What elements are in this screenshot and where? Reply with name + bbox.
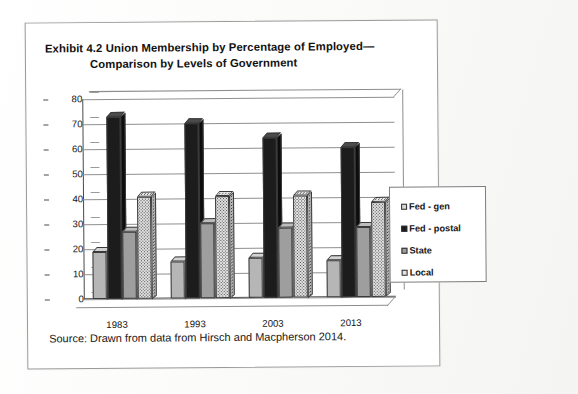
bar-front bbox=[171, 261, 185, 299]
bar-front bbox=[371, 202, 386, 297]
exhibit-title-line-1: Exhibit 4.2 Union Membership by Percenta… bbox=[45, 40, 375, 55]
y-tick-label: 20 bbox=[49, 243, 83, 254]
legend-item-local: Local bbox=[402, 267, 434, 277]
bar-front bbox=[341, 147, 356, 297]
x-tick-label-2003: 2003 bbox=[243, 317, 303, 328]
bar-chart: 01020304050607080 1983199320032013 Fed -… bbox=[36, 82, 434, 335]
bar-side bbox=[229, 191, 235, 298]
bar-state-1993 bbox=[200, 223, 215, 298]
bar-front bbox=[278, 228, 293, 298]
bar-state-1983 bbox=[122, 231, 137, 299]
y-tick-label: 60 bbox=[49, 143, 83, 154]
exhibit-title: Exhibit 4.2 Union Membership by Percenta… bbox=[45, 37, 425, 72]
y-tick-label: 80 bbox=[48, 93, 82, 104]
bar-front bbox=[263, 138, 278, 298]
bar-front bbox=[200, 223, 215, 298]
bar-state-2003 bbox=[278, 228, 293, 298]
legend-label: Fed - gen bbox=[409, 201, 450, 211]
y-tick-label: 40 bbox=[49, 193, 83, 204]
x-tick-label-2013: 2013 bbox=[321, 317, 381, 328]
legend-swatch-icon bbox=[401, 226, 407, 232]
y-tick-label: 70 bbox=[48, 118, 82, 129]
chart-legend: Fed - genFed - postalStateLocal bbox=[389, 186, 487, 283]
bar-side bbox=[307, 191, 313, 298]
bar-fedgen-1993 bbox=[171, 261, 185, 299]
bar-front bbox=[184, 123, 199, 298]
bar-front bbox=[106, 116, 121, 299]
bar-group-1993 bbox=[169, 98, 239, 299]
bar-series-container bbox=[82, 97, 396, 299]
bar-fedpostal-2013 bbox=[341, 147, 356, 297]
y-tick-mark bbox=[44, 199, 49, 200]
bar-side bbox=[151, 192, 157, 299]
bar-front bbox=[248, 258, 262, 298]
bar-front bbox=[356, 227, 371, 297]
bar-fedpostal-1983 bbox=[106, 116, 121, 299]
bar-local-1993 bbox=[215, 196, 230, 299]
bar-fedpostal-1993 bbox=[184, 123, 199, 298]
bar-front bbox=[215, 196, 230, 299]
bar-front bbox=[137, 196, 152, 299]
bar-state-2013 bbox=[356, 227, 371, 297]
plot-area: 01020304050607080 1983199320032013 bbox=[82, 89, 406, 307]
bar-fedgen-2013 bbox=[327, 260, 341, 298]
legend-swatch-icon bbox=[401, 204, 407, 210]
source-caption: Source: Drawn from data from Hirsch and … bbox=[49, 330, 346, 344]
y-tick-mark bbox=[44, 174, 49, 175]
legend-label: Local bbox=[410, 267, 434, 277]
y-tick-mark bbox=[43, 124, 48, 125]
bar-group-1983 bbox=[91, 99, 161, 300]
bar-fedgen-1983 bbox=[92, 251, 106, 299]
x-tick-label-1983: 1983 bbox=[87, 319, 147, 330]
y-tick-mark bbox=[44, 224, 49, 225]
y-tick-label: 10 bbox=[50, 268, 84, 279]
legend-label: State bbox=[409, 245, 432, 255]
bar-local-1983 bbox=[137, 196, 152, 299]
y-tick-label: 30 bbox=[49, 218, 83, 229]
y-tick-mark bbox=[45, 274, 50, 275]
bar-group-2013 bbox=[325, 97, 395, 298]
legend-item-fedpostal: Fed - postal bbox=[401, 223, 461, 233]
legend-item-state: State bbox=[401, 245, 432, 255]
y-tick-label: 50 bbox=[49, 168, 83, 179]
bar-local-2013 bbox=[371, 202, 386, 297]
bar-front bbox=[122, 231, 137, 299]
bar-fedpostal-2003 bbox=[263, 138, 278, 298]
y-tick-label: 0 bbox=[50, 293, 84, 304]
y-tick-mark bbox=[43, 99, 48, 100]
bar-local-2003 bbox=[293, 195, 308, 298]
exhibit-figure-box: Exhibit 4.2 Union Membership by Percenta… bbox=[25, 19, 441, 369]
y-tick-mark bbox=[45, 299, 50, 300]
legend-swatch-icon bbox=[401, 248, 407, 254]
bar-fedgen-2003 bbox=[248, 258, 262, 298]
exhibit-title-line-2: Comparison by Levels of Government bbox=[45, 53, 425, 72]
x-tick-label-1993: 1993 bbox=[165, 318, 225, 329]
legend-swatch-icon bbox=[402, 270, 408, 276]
legend-label: Fed - postal bbox=[409, 223, 461, 233]
y-tick-mark bbox=[44, 249, 49, 250]
bar-group-2003 bbox=[247, 97, 317, 298]
legend-item-fedgen: Fed - gen bbox=[401, 201, 450, 211]
bar-front bbox=[293, 195, 308, 298]
y-tick-mark bbox=[44, 149, 49, 150]
bar-front bbox=[92, 251, 106, 299]
bar-front bbox=[327, 260, 341, 298]
